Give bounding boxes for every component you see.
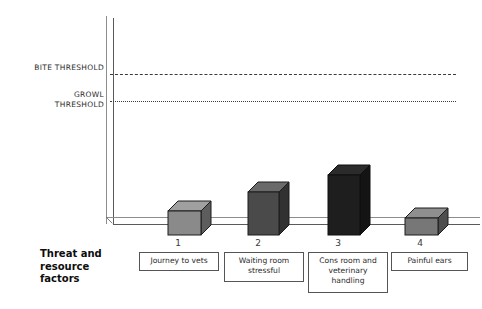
bar-1 [168,201,201,225]
category-box-2: Waiting room stressful [224,252,304,282]
category-number-4: 4 [390,238,450,248]
y-axis-front-line [113,18,114,225]
x-axis-title: Threat and resource factors [40,248,118,286]
bar-2-shape [248,182,292,235]
y-axis-back-line [106,16,107,224]
bite-threshold-line [110,74,456,75]
growl-threshold-line [110,101,456,102]
category-box-1: Journey to vets [139,252,219,271]
category-number-3: 3 [308,238,368,248]
bar-4 [405,208,438,225]
category-number-1: 1 [148,238,208,248]
axis-depth-connector [106,217,114,225]
bar-1-shape [168,201,214,235]
category-box-4: Painful ears [391,252,468,271]
bar-4-shape [405,208,451,235]
bar-3-shape [328,165,373,235]
category-box-3: Cons room and veterinary handling [308,252,388,293]
bar-2 [248,182,279,225]
chart-canvas: BITE THRESHOLD GROWL THRESHOLD [0,0,482,309]
category-number-2: 2 [228,238,288,248]
growl-threshold-label: GROWL THRESHOLD [8,90,104,109]
bite-threshold-label: BITE THRESHOLD [8,63,104,73]
bar-3 [328,165,360,225]
